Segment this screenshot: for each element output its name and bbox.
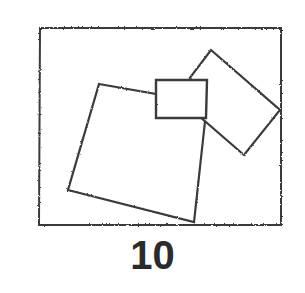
inner-shapes-group (68, 50, 280, 222)
figure-page: 10 (0, 0, 305, 293)
small-rectangle-center (156, 80, 207, 118)
figure-canvas (0, 0, 305, 240)
figure-drawing (0, 0, 305, 240)
figure-caption: 10 (0, 231, 305, 279)
